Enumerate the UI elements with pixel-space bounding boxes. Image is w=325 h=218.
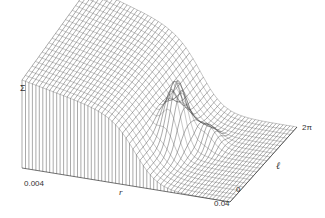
x-tick-max: 0.04 [214, 200, 230, 208]
y-tick-min: 0 [236, 186, 240, 194]
surface-plot [0, 0, 325, 218]
z-axis-label: Σ [20, 84, 26, 93]
x-axis-label: r [119, 188, 123, 197]
surface-mesh [22, 0, 297, 202]
y-axis-label: ℓ [276, 161, 280, 171]
y-tick-max: 2π [302, 124, 312, 132]
x-tick-min: 0.004 [24, 180, 44, 188]
